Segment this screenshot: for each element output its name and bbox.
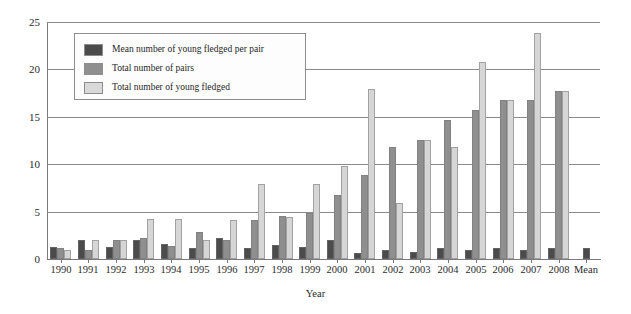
y-tick-label-5: 5 (10, 206, 40, 217)
bar (203, 240, 210, 259)
x-tick (476, 259, 477, 263)
bar (216, 238, 223, 259)
bar (175, 219, 182, 259)
bar (444, 120, 451, 259)
bar (313, 184, 320, 259)
bar (306, 213, 313, 259)
bar (147, 219, 154, 259)
bar (140, 238, 147, 259)
bar-group (462, 22, 490, 259)
y-tick-label-10: 10 (10, 159, 40, 170)
bar (520, 250, 527, 259)
bar (562, 91, 569, 259)
bar (286, 217, 293, 259)
bar (334, 195, 341, 259)
bar (272, 245, 279, 259)
x-tick (365, 259, 366, 263)
bar (120, 240, 127, 259)
x-tick (61, 259, 62, 263)
x-tick (448, 259, 449, 263)
y-tick-label-20: 20 (10, 64, 40, 75)
bar-group (572, 22, 600, 259)
bar (451, 147, 458, 259)
bar (161, 244, 168, 259)
bar (244, 248, 251, 259)
bar-group (324, 22, 352, 259)
bar (437, 248, 444, 259)
bar (479, 62, 486, 259)
x-tick (531, 259, 532, 263)
bar (361, 175, 368, 259)
bar (507, 100, 514, 259)
x-tick (199, 259, 200, 263)
legend-item: Mean number of young fledged per pair (84, 41, 305, 59)
bar (64, 250, 71, 259)
x-tick (559, 259, 560, 263)
bar (327, 240, 334, 259)
y-tick-label-0: 0 (10, 254, 40, 265)
x-tick (586, 259, 587, 263)
chart-legend: Mean number of young fledged per pair To… (74, 33, 306, 100)
bar (106, 247, 113, 259)
bar-group (545, 22, 573, 259)
bar (424, 140, 431, 259)
bar (382, 250, 389, 259)
x-tick (503, 259, 504, 263)
bar (465, 250, 472, 259)
bar (85, 250, 92, 259)
legend-label: Mean number of young fledged per pair (112, 45, 264, 55)
x-tick (393, 259, 394, 263)
bar (223, 240, 230, 259)
bar-group (517, 22, 545, 259)
x-tick (310, 259, 311, 263)
x-tick (420, 259, 421, 263)
bar (279, 216, 286, 259)
bar (251, 220, 258, 259)
legend-swatch-total-young-fledged (84, 82, 103, 94)
bar (196, 232, 203, 259)
x-tick (144, 259, 145, 263)
legend-item: Total number of young fledged (84, 79, 305, 97)
x-tick (88, 259, 89, 263)
x-axis-line (47, 259, 601, 260)
bar (389, 147, 396, 259)
bar-group (489, 22, 517, 259)
bar-group (351, 22, 379, 259)
x-tick (337, 259, 338, 263)
y-axis-labels: 0510152025 (8, 22, 40, 259)
bar (50, 247, 57, 259)
x-tick (254, 259, 255, 263)
bar (78, 240, 85, 259)
bar (555, 91, 562, 259)
x-tick (116, 259, 117, 263)
legend-label: Total number of young fledged (112, 83, 230, 93)
bar (548, 248, 555, 259)
bar (410, 252, 417, 259)
y-tick-label-15: 15 (10, 111, 40, 122)
bar (417, 140, 424, 259)
bar (500, 100, 507, 259)
bar (354, 253, 361, 259)
bar (168, 246, 175, 259)
y-tick-label-25: 25 (10, 17, 40, 28)
bar-group (47, 22, 75, 259)
bar-group (406, 22, 434, 259)
bar (396, 203, 403, 259)
bar (583, 248, 590, 259)
x-axis-title: Year (0, 288, 631, 299)
bar (113, 240, 120, 259)
bar (189, 248, 196, 259)
bar-group (434, 22, 462, 259)
legend-swatch-total-pairs (84, 63, 103, 75)
bar (527, 100, 534, 259)
bar (493, 248, 500, 259)
bar-group (379, 22, 407, 259)
bar-chart: 0510152025 19901991199219931994199519961… (0, 0, 631, 314)
bar (92, 240, 99, 259)
bar (258, 184, 265, 259)
bar (57, 248, 64, 259)
bar (341, 166, 348, 259)
bar (133, 240, 140, 259)
x-tick-label-mean: Mean (564, 265, 608, 276)
legend-label: Total number of pairs (112, 64, 194, 74)
